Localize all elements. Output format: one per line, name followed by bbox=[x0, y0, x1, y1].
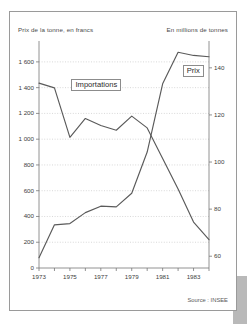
y-tick-label-right: 100 bbox=[214, 158, 224, 165]
y-tick-label-left: 1 600 bbox=[10, 58, 34, 65]
y-tick-label-right: 60 bbox=[214, 252, 221, 259]
x-tick-label: 1981 bbox=[151, 273, 175, 280]
y-tick-label-right: 80 bbox=[214, 205, 221, 212]
y-tick-label-left: 1 400 bbox=[10, 84, 34, 91]
gridlines bbox=[39, 62, 209, 242]
series-line-prix bbox=[39, 52, 209, 257]
y-tick-label-left: 1 000 bbox=[10, 135, 34, 142]
x-tick-label: 1983 bbox=[182, 273, 206, 280]
plot-svg bbox=[10, 12, 238, 312]
x-tick-label: 1977 bbox=[89, 273, 113, 280]
axis-ticks bbox=[36, 62, 212, 271]
y-tick-label-left: 600 bbox=[10, 187, 34, 194]
chart-card: Prix de la tonne, en francs En millions … bbox=[9, 11, 237, 311]
y-tick-label-right: 120 bbox=[214, 111, 224, 118]
x-tick-label: 1973 bbox=[27, 273, 51, 280]
y-tick-label-left: 400 bbox=[10, 212, 34, 219]
y-tick-label-right: 140 bbox=[214, 64, 224, 71]
source-note: Source : INSEE bbox=[187, 297, 228, 303]
y-tick-label-left: 0 bbox=[10, 264, 34, 271]
data-series bbox=[39, 52, 209, 257]
figure-root: Prix de la tonne, en francs En millions … bbox=[0, 0, 247, 324]
y-tick-label-left: 800 bbox=[10, 161, 34, 168]
y-tick-label-left: 200 bbox=[10, 238, 34, 245]
x-tick-label: 1979 bbox=[120, 273, 144, 280]
y-tick-label-left: 1 200 bbox=[10, 109, 34, 116]
series-label-prix: Prix bbox=[183, 65, 204, 77]
series-line-importations bbox=[39, 83, 209, 240]
x-tick-label: 1975 bbox=[58, 273, 82, 280]
series-label-importations: Importations bbox=[71, 79, 121, 91]
plot-area: 02004006008001 0001 2001 4001 600 608010… bbox=[10, 12, 238, 312]
